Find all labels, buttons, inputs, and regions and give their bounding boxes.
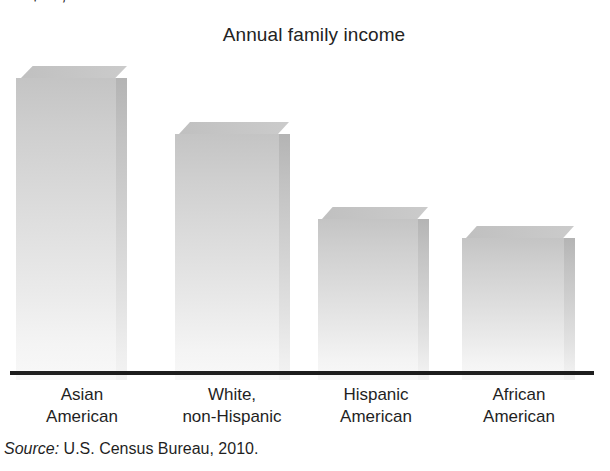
bar-side-face: [564, 238, 575, 380]
bar-front-face: [318, 219, 418, 380]
bar-top-face: [322, 207, 428, 219]
x-axis-baseline: [10, 371, 594, 375]
bar-group-white-non-hispanic: $55,530: [175, 9, 291, 380]
source-text: U.S. Census Bureau, 2010.: [64, 440, 259, 457]
source-label: Source:: [4, 440, 59, 457]
bar-top-face: [21, 66, 127, 78]
category-label-line2: American: [6, 406, 158, 428]
plot-area: $65,637 $55,530 $37,913 $34,218: [0, 0, 610, 380]
category-label-asian-american: Asian American: [6, 384, 158, 428]
category-label-line1: White,: [156, 384, 308, 406]
bar-side-face: [279, 134, 290, 380]
source-note: Source: U.S. Census Bureau, 2010.: [4, 440, 258, 458]
bar-value-label: $55,530: [170, 0, 286, 1]
category-label-line2: American: [300, 406, 452, 428]
bar-side-face: [116, 78, 127, 380]
bar-top-face: [179, 122, 289, 134]
category-label-line1: Asian: [6, 384, 158, 406]
category-label-african-american: African American: [443, 384, 595, 428]
bar-value-label: $34,218: [458, 0, 572, 1]
category-label-line2: American: [443, 406, 595, 428]
category-label-line2: non-Hispanic: [156, 406, 308, 428]
bar-group-asian-american: $65,637: [16, 9, 122, 380]
bar-side-face: [418, 219, 429, 380]
category-label-hispanic-american: Hispanic American: [300, 384, 452, 428]
bar-group-african-american: $34,218: [462, 9, 576, 380]
category-label-line1: African: [443, 384, 595, 406]
bar-front-face: [462, 238, 564, 380]
bar-value-label: $65,637: [11, 0, 117, 5]
category-label-white-non-hispanic: White, non-Hispanic: [156, 384, 308, 428]
bar-top-face: [466, 226, 574, 238]
bar-value-label: $37,913: [314, 0, 426, 1]
category-label-line1: Hispanic: [300, 384, 452, 406]
bar-group-hispanic-american: $37,913: [318, 9, 430, 380]
chart-container: Annual family income $65,637 $55,530 $37…: [0, 0, 610, 471]
bar-front-face: [16, 78, 116, 380]
bar-front-face: [175, 134, 279, 380]
